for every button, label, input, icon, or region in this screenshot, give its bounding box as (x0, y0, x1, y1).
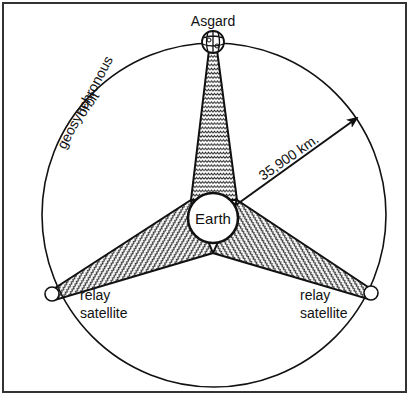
relay-right-label-line1: relay (300, 287, 330, 303)
earth-label: Earth (195, 210, 231, 227)
asgard-label: Asgard (191, 13, 235, 29)
relay-left-label-line1: relay (80, 287, 110, 303)
relay-left-label-line2: satellite (80, 305, 128, 321)
geosynchronous-orbit-diagram: Earth Asgard relay satellite relay satel… (0, 0, 410, 405)
relay-right-label-line2: satellite (300, 305, 348, 321)
relay-satellite-right-icon (364, 286, 378, 300)
relay-satellite-left-icon (45, 287, 59, 301)
asgard-station-icon (202, 31, 224, 53)
